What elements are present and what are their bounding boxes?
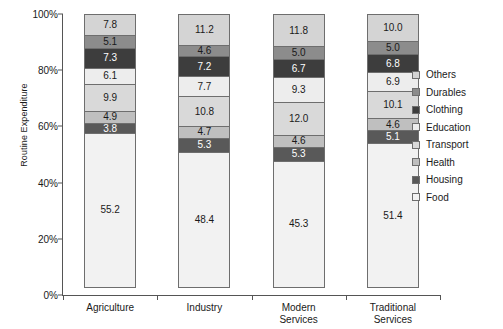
bar-segment[interactable]: 7.2: [178, 56, 230, 76]
chart-legend: OthersDurablesClothingEducationTransport…: [412, 66, 470, 206]
legend-item-label: Durables: [426, 87, 466, 98]
x-axis-tick-mark: [346, 295, 347, 300]
bar-segment[interactable]: 10.0: [367, 14, 419, 42]
bar-segment[interactable]: 4.9: [84, 111, 136, 125]
x-axis-category-line: Agriculture: [63, 302, 157, 314]
bar-segment-value: 55.2: [100, 205, 119, 215]
legend-item-label: Health: [426, 157, 455, 168]
legend-swatch-icon: [412, 71, 420, 79]
bar-segment-value: 7.3: [103, 53, 117, 63]
bar-segment[interactable]: 7.8: [84, 14, 136, 36]
bar-stack[interactable]: 11.85.06.79.312.04.65.345.3: [273, 14, 325, 295]
legend-item[interactable]: Durables: [412, 84, 470, 102]
legend-swatch-icon: [412, 123, 420, 131]
bar-segment[interactable]: 55.2: [84, 133, 136, 288]
bar-segment-value: 7.2: [197, 62, 211, 72]
y-axis-tick-labels: 0%20%40%60%80%100%: [14, 0, 58, 329]
x-axis-tick-mark: [252, 295, 253, 300]
bar-segment[interactable]: 12.0: [273, 102, 325, 136]
legend-swatch-icon: [412, 106, 420, 114]
legend-swatch-icon: [412, 176, 420, 184]
y-axis-tick-label: 0%: [44, 290, 58, 301]
bar-segment[interactable]: 10.8: [178, 96, 230, 126]
legend-item[interactable]: Others: [412, 66, 470, 84]
y-axis-tick-label: 80%: [38, 65, 58, 76]
bar-segment[interactable]: 6.1: [84, 68, 136, 85]
stacked-bar-chart: Routine Expenditure 0%20%40%60%80%100% 7…: [0, 0, 503, 329]
y-axis-tick-mark: [58, 182, 63, 183]
bar-segment-value: 6.8: [386, 59, 400, 69]
bar-segment[interactable]: 5.1: [84, 35, 136, 49]
bar-segment-value: 7.7: [197, 82, 211, 92]
legend-item-label: Education: [426, 122, 470, 133]
y-axis-tick-mark: [58, 70, 63, 71]
bar-segment-value: 4.7: [197, 127, 211, 137]
y-axis-tick-mark: [58, 238, 63, 239]
bar-segment-value: 45.3: [289, 219, 308, 229]
x-axis-category-line: Services: [252, 314, 346, 326]
plot-area: 7.85.17.36.19.94.93.855.211.24.67.27.710…: [63, 14, 440, 295]
bar-segment-value: 10.8: [195, 107, 214, 117]
bar-stack[interactable]: 7.85.17.36.19.94.93.855.2: [84, 14, 136, 295]
legend-swatch-icon: [412, 158, 420, 166]
y-axis-tick-label: 100%: [32, 9, 58, 20]
x-axis-category-label: TraditionalServices: [346, 302, 440, 326]
bar-segment-value: 4.9: [103, 112, 117, 122]
bar-segment[interactable]: 11.8: [273, 14, 325, 47]
bar-segment[interactable]: 6.7: [273, 59, 325, 78]
legend-item[interactable]: Food: [412, 189, 470, 207]
legend-item[interactable]: Health: [412, 154, 470, 172]
bar-segment[interactable]: 7.7: [178, 76, 230, 98]
bar-segment-value: 6.1: [103, 71, 117, 81]
bar-segment[interactable]: 11.2: [178, 14, 230, 46]
legend-item-label: Clothing: [426, 104, 463, 115]
x-axis-tick-mark: [440, 295, 441, 300]
legend-item[interactable]: Clothing: [412, 101, 470, 119]
bar-segment[interactable]: 5.3: [273, 147, 325, 162]
bar-segment-value: 4.6: [292, 136, 306, 146]
x-axis-category-label: Industry: [157, 302, 251, 314]
bar-segment[interactable]: 5.0: [367, 41, 419, 55]
y-axis-tick-mark: [58, 126, 63, 127]
bar-segment-value: 5.3: [197, 140, 211, 150]
x-axis-tick-mark: [157, 295, 158, 300]
y-axis-tick-label: 60%: [38, 121, 58, 132]
legend-item[interactable]: Transport: [412, 136, 470, 154]
bar-segment-value: 11.8: [289, 26, 308, 36]
bar-segment-value: 5.0: [292, 48, 306, 58]
legend-swatch-icon: [412, 88, 420, 96]
bar-segment-value: 7.8: [103, 20, 117, 30]
bar-stack[interactable]: 11.24.67.27.710.84.75.348.4: [178, 14, 230, 295]
bar-segment[interactable]: 5.0: [273, 46, 325, 60]
bar-segment[interactable]: 7.3: [84, 48, 136, 68]
bar-segment[interactable]: 48.4: [178, 152, 230, 288]
legend-swatch-icon: [412, 193, 420, 201]
legend-swatch-icon: [412, 141, 420, 149]
bar-segment[interactable]: 5.3: [178, 138, 230, 153]
x-axis-tick-mark: [63, 295, 64, 300]
bar-segment[interactable]: 45.3: [273, 161, 325, 288]
bar-segment-value: 5.3: [292, 149, 306, 159]
y-axis-tick-label: 20%: [38, 233, 58, 244]
legend-item[interactable]: Education: [412, 119, 470, 137]
bar-segment-value: 5.0: [386, 43, 400, 53]
bar-segment-value: 9.3: [292, 85, 306, 95]
legend-item-label: Others: [426, 69, 456, 80]
x-axis-category-label: Agriculture: [63, 302, 157, 314]
legend-item-label: Transport: [426, 139, 468, 150]
legend-item[interactable]: Housing: [412, 171, 470, 189]
bar-segment-value: 9.9: [103, 93, 117, 103]
bar-segment-value: 10.1: [383, 100, 402, 110]
x-axis-category-line: Services: [346, 314, 440, 326]
bar-segment-value: 5.1: [386, 132, 400, 142]
x-axis-category-line: Traditional: [346, 302, 440, 314]
bar-segment-value: 48.4: [195, 215, 214, 225]
legend-item-label: Housing: [426, 174, 463, 185]
x-axis-category-line: Modern: [252, 302, 346, 314]
bar-segment[interactable]: 9.3: [273, 77, 325, 103]
bar-segment-value: 4.6: [386, 120, 400, 130]
bar-segment-value: 4.6: [197, 46, 211, 56]
y-axis-tick-mark: [58, 14, 63, 15]
bar-segment[interactable]: 9.9: [84, 84, 136, 112]
y-axis-tick-label: 40%: [38, 177, 58, 188]
